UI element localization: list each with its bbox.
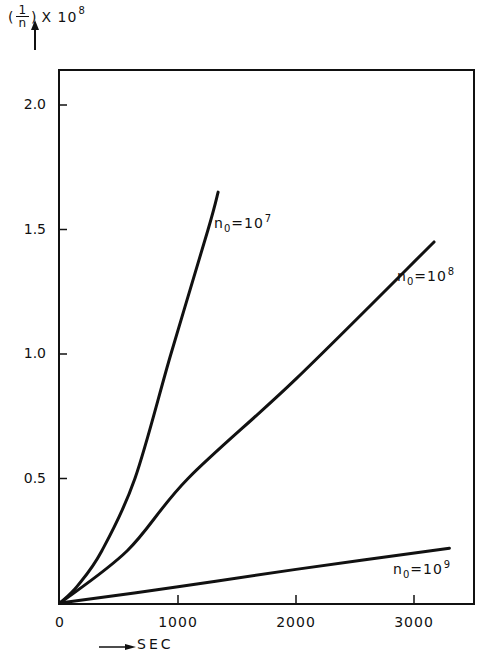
y-ticks bbox=[59, 105, 67, 479]
curve-label-mid: =10 bbox=[410, 561, 443, 577]
x-axis-label: SEC bbox=[97, 636, 174, 652]
curve-label-mid: =10 bbox=[414, 268, 447, 284]
x-tick-label: 1000 bbox=[148, 614, 208, 630]
y-label-close-paren: ) bbox=[31, 9, 37, 25]
curves bbox=[60, 192, 449, 603]
curve-label-base: n bbox=[393, 561, 403, 577]
x-axis-label-text: SEC bbox=[137, 636, 174, 652]
y-label-fraction: 1 n bbox=[16, 4, 29, 29]
curve-label-exp: 8 bbox=[448, 266, 455, 277]
y-tick-label: 0.5 bbox=[0, 470, 46, 486]
curve-n0-10-7 bbox=[60, 192, 218, 603]
x-tick-label: 2000 bbox=[266, 614, 326, 630]
curve-label-base: n bbox=[214, 215, 224, 231]
y-tick-label: 1.0 bbox=[0, 345, 46, 361]
x-tick-label: 0 bbox=[30, 614, 90, 630]
x-ticks bbox=[178, 595, 414, 603]
y-label-exponent: 8 bbox=[78, 5, 85, 16]
curve-n0-10-8 bbox=[60, 242, 434, 603]
curve-label-sub: 0 bbox=[403, 569, 410, 580]
curve-label-sub: 0 bbox=[224, 223, 231, 234]
y-label-denominator: n bbox=[18, 17, 27, 29]
curve-n0-10-9 bbox=[60, 548, 449, 603]
y-tick-label: 2.0 bbox=[0, 96, 46, 112]
curve-label: n0=108 bbox=[397, 268, 455, 284]
curve-label-sub: 0 bbox=[407, 276, 414, 287]
curve-label-mid: =10 bbox=[231, 215, 264, 231]
curve-label-exp: 9 bbox=[444, 559, 451, 570]
y-axis-label: ( 1 n ) X 10 8 bbox=[8, 4, 86, 29]
plot-frame bbox=[59, 70, 474, 604]
curve-label: n0=107 bbox=[214, 215, 272, 231]
y-label-multiplier: X 10 bbox=[42, 9, 78, 25]
x-tick-label: 3000 bbox=[384, 614, 444, 630]
y-tick-label: 1.5 bbox=[0, 221, 46, 237]
curve-label-base: n bbox=[397, 268, 407, 284]
curve-label-exp: 7 bbox=[265, 213, 272, 224]
curve-label: n0=109 bbox=[393, 561, 451, 577]
y-label-open-paren: ( bbox=[8, 9, 14, 25]
